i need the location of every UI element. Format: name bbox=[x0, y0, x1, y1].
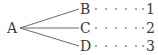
leader-dot bbox=[125, 27, 127, 29]
leader-dot bbox=[142, 8, 144, 10]
leader-dot bbox=[125, 45, 127, 47]
edge-a-d bbox=[20, 28, 79, 46]
leader-dot bbox=[142, 27, 144, 29]
leader-dot bbox=[95, 8, 97, 10]
leader-dot bbox=[105, 27, 107, 29]
root-node-label: A bbox=[6, 20, 18, 36]
leader-dot bbox=[135, 8, 137, 10]
branch-value-3: 3 bbox=[146, 38, 155, 54]
branch-value-1: 1 bbox=[146, 1, 155, 17]
branch-value-2: 2 bbox=[146, 20, 155, 36]
leader-dot bbox=[95, 45, 97, 47]
leader-dot bbox=[115, 8, 117, 10]
leader-dot bbox=[105, 8, 107, 10]
branch-label-c: C bbox=[80, 20, 91, 36]
leader-dot bbox=[105, 45, 107, 47]
leader-dot bbox=[125, 8, 127, 10]
branch-label-d: D bbox=[80, 38, 91, 54]
tree-edges bbox=[20, 9, 79, 46]
leader-dot bbox=[115, 27, 117, 29]
leader-dot bbox=[135, 45, 137, 47]
tree-diagram: A B1C2D3 bbox=[0, 0, 158, 55]
leader-dot bbox=[135, 27, 137, 29]
leader-dot bbox=[95, 27, 97, 29]
leader-dot bbox=[142, 45, 144, 47]
branch-nodes: B1C2D3 bbox=[80, 1, 155, 54]
branch-label-b: B bbox=[80, 1, 90, 17]
leader-dot bbox=[115, 45, 117, 47]
edge-a-b bbox=[20, 9, 79, 28]
